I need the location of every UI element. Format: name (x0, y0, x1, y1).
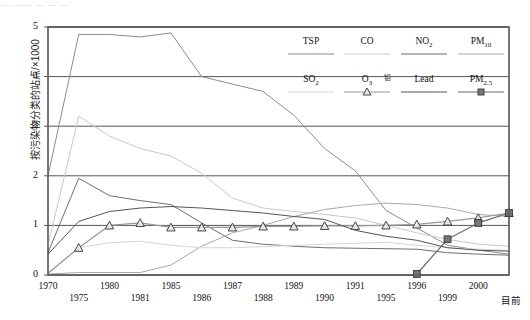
legend-label-text: O (362, 74, 369, 84)
legend-label-text: NO (415, 36, 429, 46)
y-tick-label-1: 1 (20, 218, 38, 229)
x-tick-label-1996: 1996 (399, 281, 435, 291)
x-tick-label-1989: 1989 (276, 281, 312, 291)
legend-item-pm25[interactable]: PM2.5 (455, 74, 507, 87)
legend-item-tsp[interactable]: TSP (285, 36, 337, 46)
y-tick-label-2: 2 (20, 169, 38, 180)
legend-swatch-pm25 (456, 86, 506, 98)
x-tick-label-1987: 1987 (214, 281, 250, 291)
x-tick-label-1981: 1981 (122, 293, 158, 303)
marker-square-pm25 (413, 271, 420, 278)
x-tick-label-1990: 1990 (307, 293, 343, 303)
x-tick-label-1986: 1986 (184, 293, 220, 303)
legend-swatch-lead (399, 86, 449, 98)
y-tick-label-4: 4 (20, 70, 38, 81)
x-tick-label-1991: 1991 (337, 281, 373, 291)
y-tick-label-3: 3 (20, 119, 38, 130)
faint-header-text: — —— — — — (2, 0, 122, 12)
legend-label-text: TSP (303, 36, 319, 46)
x-tick-label-1995: 1995 (368, 293, 404, 303)
x-tick-label-1985: 1985 (153, 281, 189, 291)
legend-item-no2[interactable]: NO2 (398, 36, 450, 49)
marker-square-pm25 (444, 236, 451, 243)
legend-label-text: SO (303, 74, 315, 84)
legend-label-text: Lead (415, 74, 434, 84)
legend-swatch-co (342, 48, 392, 60)
chart-root: — —— — — — 按污染物分类的站点/×1000 012345 197019… (0, 0, 530, 320)
x-tick-label-1999: 1999 (430, 293, 466, 303)
legend-marker-square (478, 89, 484, 95)
legend-label-text: PM (471, 36, 485, 46)
legend-item-so2[interactable]: SO2 (285, 74, 337, 87)
x-tick-label-1988: 1988 (245, 293, 281, 303)
y-tick-label-0: 0 (20, 268, 38, 279)
x-tick-label-目前: 目前 (493, 293, 529, 307)
x-tick-label-2000: 2000 (460, 281, 496, 291)
legend-item-co[interactable]: CO (341, 36, 393, 46)
legend-label-text: CO (360, 36, 373, 46)
legend-swatch-tsp (286, 48, 336, 60)
legend-label-cn-lead: 铅 (384, 72, 391, 82)
legend-item-pm10[interactable]: PM10 (455, 36, 507, 49)
legend-label-text: PM (470, 74, 484, 84)
y-axis-label: 按污染物分类的站点/×1000 (27, 20, 42, 180)
legend-item-lead[interactable]: Lead (398, 74, 450, 84)
y-tick-label-5: 5 (20, 20, 38, 31)
legend-swatch-so2 (286, 86, 336, 98)
legend-swatch-no2 (399, 48, 449, 60)
chart-plot-svg (0, 0, 530, 320)
x-tick-label-1975: 1975 (61, 293, 97, 303)
x-tick-label-1970: 1970 (30, 281, 66, 291)
legend-swatch-o3 (342, 86, 392, 98)
marker-square-pm25 (475, 220, 482, 227)
x-tick-label-1980: 1980 (91, 281, 127, 291)
legend-swatch-pm10 (456, 48, 506, 60)
